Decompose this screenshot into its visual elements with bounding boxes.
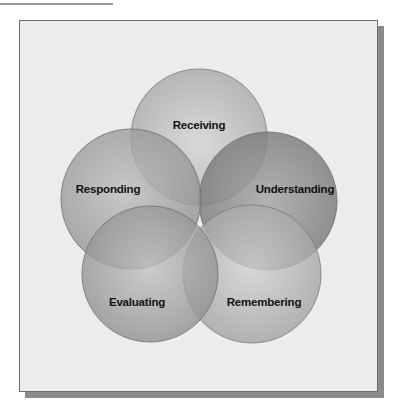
label-receiving: Receiving: [173, 119, 226, 131]
label-remembering: Remembering: [227, 296, 302, 308]
label-responding: Responding: [76, 183, 141, 195]
circle-evaluating: [82, 206, 218, 342]
label-evaluating: Evaluating: [109, 296, 165, 308]
label-understanding: Understanding: [256, 183, 335, 195]
listening-process-diagram: Receiving Responding Understanding Evalu…: [0, 0, 403, 412]
